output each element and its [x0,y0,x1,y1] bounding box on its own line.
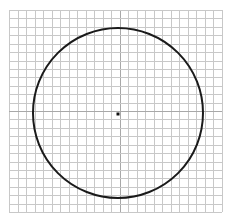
circle-grid-diagram [0,0,231,221]
grid [9,10,223,213]
center-point [117,113,120,116]
